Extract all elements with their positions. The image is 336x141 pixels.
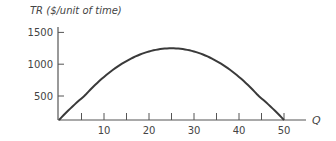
- x-ticks: 1020304050: [82, 113, 291, 136]
- y-tick-label: 1500: [28, 27, 53, 38]
- y-tick-label: 500: [34, 91, 53, 102]
- x-tick-label: 40: [233, 125, 246, 136]
- chart-svg: 50010001500 TR ($/unit of time) 10203040…: [0, 0, 336, 141]
- y-axis-label: TR ($/unit of time): [30, 5, 122, 16]
- x-tick-label: 50: [278, 125, 291, 136]
- y-tick-label: 1000: [28, 59, 53, 70]
- x-tick-label: 30: [188, 125, 201, 136]
- x-tick-label: 20: [143, 125, 156, 136]
- y-axis: 50010001500 TR ($/unit of time): [28, 5, 122, 120]
- total-revenue-curve: [59, 48, 284, 120]
- x-tick-label: 10: [98, 125, 111, 136]
- total-revenue-chart: 50010001500 TR ($/unit of time) 10203040…: [0, 0, 336, 141]
- x-axis-label: Q: [312, 114, 321, 127]
